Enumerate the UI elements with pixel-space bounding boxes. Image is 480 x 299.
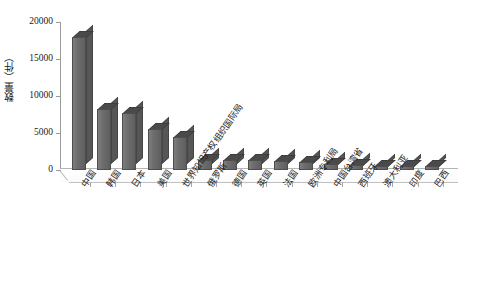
x-tick (191, 182, 192, 187)
x-tick (216, 182, 217, 187)
y-tick (56, 133, 61, 134)
y-tick (56, 170, 61, 171)
x-tick (317, 182, 318, 187)
bar (72, 37, 86, 170)
bar (299, 162, 313, 170)
bar (400, 166, 414, 170)
x-tick (443, 182, 444, 187)
bar-front-face (248, 160, 262, 170)
bar (425, 166, 439, 170)
bar-front-face (425, 166, 439, 170)
x-tick (292, 182, 293, 187)
y-tick-label: 15000 (29, 54, 53, 64)
bar-front-face (400, 166, 414, 170)
bar (223, 160, 237, 170)
bar-front-face (122, 113, 136, 170)
bar (274, 161, 288, 170)
bar-front-face (223, 160, 237, 170)
y-tick-label: 5000 (34, 128, 53, 138)
bar-chart: 数量（件） 05000100001500020000 中国韩国日本美国世界知识产… (0, 0, 480, 299)
bar (324, 164, 338, 170)
y-tick (56, 59, 61, 60)
x-tick (342, 182, 343, 187)
bar-front-face (274, 161, 288, 170)
y-tick-label: 0 (48, 165, 53, 175)
y-axis-title: 数量（件） (4, 52, 22, 102)
bar (122, 113, 136, 170)
x-tick (392, 182, 393, 187)
y-tick-label: 20000 (29, 17, 53, 27)
bar-front-face (374, 166, 388, 170)
x-tick (418, 182, 419, 187)
y-tick-label: 10000 (29, 91, 53, 101)
chart-floor (60, 168, 458, 182)
chart-floor-front-edge (69, 182, 458, 183)
bar-front-face (173, 137, 187, 170)
x-tick (90, 182, 91, 187)
bar-front-face (148, 129, 162, 170)
bar-front-face (299, 162, 313, 170)
bar-front-face (349, 165, 363, 170)
bar-front-face (324, 164, 338, 170)
y-tick (56, 96, 61, 97)
bar (198, 160, 212, 170)
plot-area: 05000100001500020000 (60, 22, 458, 170)
bar (148, 129, 162, 170)
x-tick (367, 182, 368, 187)
x-tick (266, 182, 267, 187)
bar-front-face (198, 160, 212, 170)
y-tick (56, 22, 61, 23)
bar-side-face (86, 25, 93, 164)
bar (97, 109, 111, 170)
bar (248, 160, 262, 170)
x-tick (241, 182, 242, 187)
bar (349, 165, 363, 170)
bar-front-face (72, 37, 86, 170)
x-tick (140, 182, 141, 187)
x-tick (115, 182, 116, 187)
x-tick (166, 182, 167, 187)
bar (374, 166, 388, 170)
bar (173, 137, 187, 170)
bar-front-face (97, 109, 111, 170)
